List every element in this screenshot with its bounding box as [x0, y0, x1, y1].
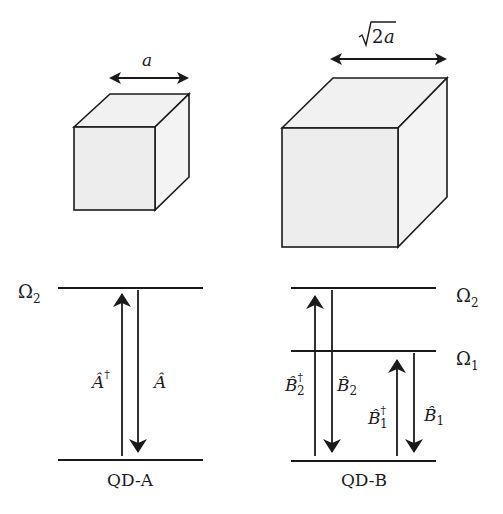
dimension-label-a: a [142, 50, 152, 70]
energy-diagram-qd-a: Ω2 Â† Â QD-A [18, 281, 203, 490]
level-label-omega2: Ω2 [456, 285, 479, 310]
operator-label-a-dagger: Â† [90, 368, 110, 392]
operator-label-b1-dagger: B̂†1 [367, 404, 388, 431]
operator-label-b1: B̂1 [423, 405, 444, 428]
cube-front-face [282, 128, 398, 247]
caption-qd-a: QD-A [107, 470, 154, 490]
quantum-dot-diagram: a 2 a Ω2 Â† Â QD-A Ω2 Ω1 [0, 0, 503, 514]
svg-text:2: 2 [372, 26, 383, 47]
cube-qd-a: a [74, 50, 189, 210]
svg-text:a: a [384, 26, 395, 47]
operator-label-b2: B̂2 [336, 375, 357, 398]
level-label-omega2: Ω2 [18, 281, 41, 306]
energy-diagram-qd-b: Ω2 Ω1 B̂†2 B̂2 B̂†1 B̂1 QD-B [284, 285, 479, 490]
cube-qd-b: 2 a [282, 22, 447, 247]
cube-front-face [74, 127, 155, 210]
level-label-omega1: Ω1 [456, 348, 479, 373]
operator-label-b2-dagger: B̂†2 [284, 371, 305, 398]
operator-label-a: Â [152, 372, 166, 392]
caption-qd-b: QD-B [341, 470, 387, 490]
dimension-label-sqrt2a: 2 a [359, 22, 396, 47]
